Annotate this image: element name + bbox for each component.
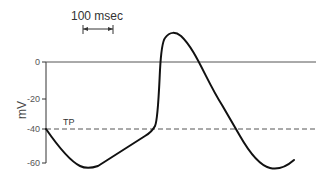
y-axis: 0 -20 -40 -60 mV <box>15 57 46 168</box>
y-tick-label-0: 0 <box>35 57 40 67</box>
scale-bar-label: 100 msec <box>71 9 123 23</box>
threshold-label: TP <box>63 117 75 127</box>
y-tick-label-minus60: -60 <box>27 158 40 168</box>
y-tick-label-minus40: -40 <box>27 124 40 134</box>
action-potential-chart: 100 msec 0 -20 -40 -60 mV TP <box>0 0 328 182</box>
scale-bar-left-arrow-icon <box>83 27 88 31</box>
y-axis-label: mV <box>15 101 29 119</box>
scale-bar-right-arrow-icon <box>108 27 113 31</box>
scale-bar: 100 msec <box>71 9 123 34</box>
action-potential-curve <box>46 33 294 169</box>
